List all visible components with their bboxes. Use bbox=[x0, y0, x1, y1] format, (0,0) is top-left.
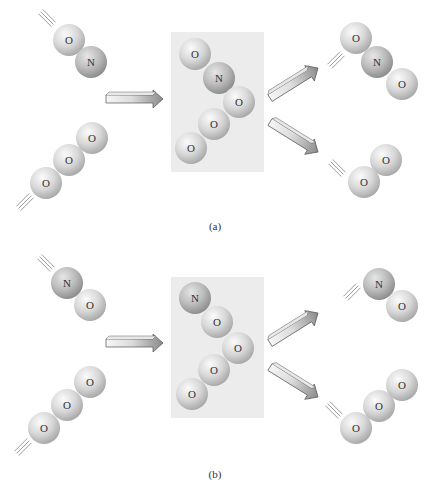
atom-label: O bbox=[210, 118, 218, 130]
oxygen-atom: O bbox=[176, 378, 208, 410]
atom-label: N bbox=[63, 277, 71, 289]
atom-label: O bbox=[360, 176, 368, 188]
atom-label: O bbox=[63, 399, 71, 411]
oxygen-atom: O bbox=[74, 289, 106, 321]
atom-label: N bbox=[215, 72, 223, 84]
oxygen-atom: O bbox=[386, 68, 418, 100]
reaction-arrow-out bbox=[265, 305, 323, 350]
atom-label: O bbox=[210, 364, 218, 376]
oxygen-atom: O bbox=[348, 166, 380, 198]
oxygen-atom: O bbox=[74, 366, 106, 398]
atom-label: O bbox=[382, 154, 390, 166]
oxygen-atom: O bbox=[53, 144, 85, 176]
oxygen-atom: O bbox=[179, 38, 211, 70]
motion-lines-icon bbox=[344, 284, 361, 301]
atom-label: O bbox=[187, 142, 195, 154]
reaction-arrow-in bbox=[106, 90, 163, 108]
atom-label: O bbox=[213, 316, 221, 328]
atom-label: O bbox=[188, 388, 196, 400]
motion-lines-icon bbox=[38, 255, 55, 272]
oxygen-atom: O bbox=[28, 412, 60, 444]
atom-label: O bbox=[40, 422, 48, 434]
atom-label: O bbox=[86, 299, 94, 311]
oxygen-atom: O bbox=[51, 389, 83, 421]
atom-label: O bbox=[352, 32, 360, 44]
oxygen-atom: O bbox=[30, 167, 62, 199]
motion-lines-icon bbox=[329, 160, 346, 177]
oxygen-atom: O bbox=[340, 412, 372, 444]
atom-label: O bbox=[235, 96, 243, 108]
atom-label: O bbox=[398, 78, 406, 90]
nitrogen-atom: N bbox=[361, 46, 393, 78]
oxygen-atom: O bbox=[175, 132, 207, 164]
atom-label: O bbox=[65, 154, 73, 166]
oxygen-atom: O bbox=[201, 306, 233, 338]
panel-caption: (a) bbox=[209, 220, 222, 233]
motion-lines-icon bbox=[326, 402, 343, 419]
oxygen-atom: O bbox=[198, 108, 230, 140]
atoms: ONOOOONOOOONOOONOOOONOOOONOOOO bbox=[28, 22, 418, 444]
atom-label: N bbox=[373, 56, 381, 68]
atom-label: O bbox=[398, 300, 406, 312]
atom-label: N bbox=[191, 292, 199, 304]
panel-caption: (b) bbox=[209, 468, 222, 481]
reaction-diagram: ONOOOONOOOONOOONOOOONOOOONOOOO (a)(b) bbox=[0, 0, 431, 482]
oxygen-atom: O bbox=[340, 22, 372, 54]
atom-label: O bbox=[375, 400, 383, 412]
oxygen-atom: O bbox=[223, 86, 255, 118]
reaction-arrow-in bbox=[106, 334, 163, 352]
atom-label: O bbox=[398, 379, 406, 391]
atom-label: O bbox=[86, 376, 94, 388]
reaction-arrow-out bbox=[265, 359, 323, 404]
atom-label: O bbox=[88, 132, 96, 144]
motion-lines-icon bbox=[15, 439, 32, 456]
atom-label: O bbox=[191, 48, 199, 60]
oxygen-atom: O bbox=[386, 290, 418, 322]
motion-lines-icon bbox=[328, 52, 345, 69]
motion-lines-icon bbox=[39, 10, 56, 27]
nitrogen-atom: N bbox=[75, 46, 107, 78]
reaction-arrow-out bbox=[265, 114, 323, 159]
reaction-arrow-out bbox=[265, 60, 323, 105]
atom-label: N bbox=[87, 56, 95, 68]
atom-label: O bbox=[65, 34, 73, 46]
oxygen-atom: O bbox=[222, 332, 254, 364]
oxygen-atom: O bbox=[198, 354, 230, 386]
nitrogen-atom: N bbox=[179, 282, 211, 314]
atom-label: N bbox=[375, 278, 383, 290]
atom-label: O bbox=[352, 422, 360, 434]
atom-label: O bbox=[42, 177, 50, 189]
atom-label: O bbox=[234, 342, 242, 354]
motion-lines-icon bbox=[17, 194, 34, 211]
